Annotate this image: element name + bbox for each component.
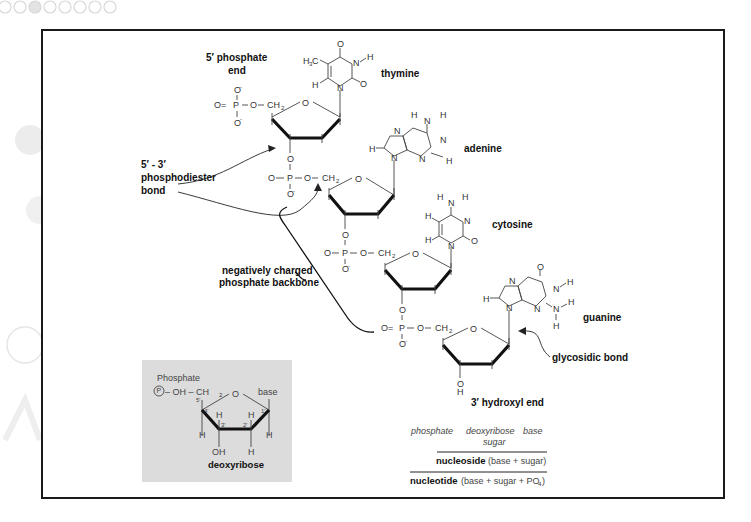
atom-o: O: [342, 230, 349, 240]
legend-nucleoside: nucleoside: [436, 455, 486, 466]
atom-h: H: [446, 156, 453, 166]
backbone-label-1: negatively charged: [222, 265, 313, 276]
atom-n: N: [448, 198, 455, 208]
atom-h: H: [457, 387, 464, 397]
ring-o: O: [302, 98, 309, 108]
atom-n: N: [353, 58, 360, 68]
three-prime-end-label: 3′ hydroxyl end: [471, 397, 544, 408]
legend-nucleoside-desc: (base + sugar): [488, 456, 546, 466]
sub: 2: [392, 253, 396, 259]
atom-o: O: [381, 323, 388, 333]
atom-ch2: CH: [267, 100, 280, 110]
inset-phosphate-label: Phosphate: [157, 373, 200, 383]
atom-h: H: [425, 235, 432, 245]
sub: 2: [449, 328, 453, 334]
bond-eq: =: [388, 323, 393, 333]
legend-base: base: [523, 426, 543, 436]
inset-oh-ch2: – OH – CH: [165, 387, 209, 397]
atom-n: N: [509, 276, 516, 286]
atom-n: N: [419, 154, 426, 164]
atom-o: O: [360, 248, 367, 258]
atom-h: H: [216, 410, 223, 420]
atom-n: N: [553, 304, 560, 314]
prime-4: 4': [204, 408, 208, 414]
atom-h: H: [567, 277, 574, 287]
atom-h: H: [568, 297, 575, 307]
atom-o: O: [471, 236, 478, 246]
five-prime-end-label: 5′ phosphate: [206, 52, 268, 63]
legend-nucleotide-desc: (base + sugar + PO: [461, 476, 540, 486]
legend-sugar: sugar: [483, 437, 507, 447]
atom-p: P: [233, 100, 239, 110]
atom-h: H: [411, 110, 418, 120]
atom-h: H: [553, 321, 560, 331]
atom-ch2: CH: [322, 173, 335, 183]
backbone-label-2: phosphate backbone: [219, 277, 319, 288]
atom-p: P: [287, 173, 293, 183]
atom-h: H: [266, 430, 273, 440]
legend-deoxyribose: deoxyribose: [466, 426, 515, 436]
atom-h: H: [369, 144, 376, 154]
atom-n: N: [464, 216, 471, 226]
dna-strand-diagram: 5′ phosphate end 5′ - 3′ phosphodiester …: [0, 0, 751, 522]
nucleotide-legend: phosphate deoxyribose sugar base nucleos…: [410, 426, 547, 487]
atom-c: C: [312, 56, 319, 66]
atom-o: O: [537, 262, 544, 272]
charge: -: [293, 188, 295, 194]
atom-o: O: [268, 173, 275, 183]
atom-n: N: [391, 153, 398, 163]
charge: -: [240, 116, 242, 122]
atom-ch2: CH: [435, 323, 448, 333]
charge: -: [348, 263, 350, 269]
atom-o: O: [324, 248, 331, 258]
ring-o: O: [470, 324, 477, 334]
charge: -: [405, 338, 407, 344]
prime-2: 2': [243, 422, 247, 428]
atom-ch2: CH: [378, 248, 391, 258]
atom-o: O: [360, 79, 367, 89]
bond-eq: =: [221, 100, 226, 110]
atom-o: O: [337, 39, 344, 49]
prime-1: 1': [261, 408, 265, 414]
charge: -: [240, 84, 242, 90]
atom-oh: OH: [212, 447, 226, 457]
atom-h: H: [437, 192, 444, 202]
phosphodiester-label-2: phosphodiester: [141, 172, 216, 183]
atom-h: H: [248, 447, 255, 457]
atom-n: N: [424, 116, 431, 126]
sub: 2: [336, 178, 340, 184]
atom-h: H: [248, 410, 255, 420]
atom-n: N: [337, 83, 344, 93]
atom-o: O: [304, 173, 311, 183]
atom-n: N: [394, 126, 401, 136]
atom-h: H: [425, 211, 432, 221]
atom-h: H: [462, 192, 469, 202]
inset-ring-o: O: [232, 389, 239, 399]
atom-o: O: [214, 100, 221, 110]
glycosidic-bond-label: glycosidic bond: [552, 352, 628, 363]
atom-h: H: [483, 294, 490, 304]
legend-close-paren: ): [542, 476, 545, 486]
atom-p: P: [399, 323, 405, 333]
p-circle-icon: P: [157, 387, 162, 394]
atom-o: O: [287, 154, 294, 164]
five-prime-end-label-2: end: [228, 65, 246, 76]
atom-p: P: [342, 248, 348, 258]
prime-3: 3': [221, 422, 225, 428]
atom-h: H: [367, 52, 374, 62]
base-label-adenine: adenine: [464, 143, 502, 154]
deoxyribose-inset: Phosphate P – OH – CH 2 O base 5' 4' 3' …: [142, 360, 292, 482]
atom-o: O: [399, 305, 406, 315]
atom-n: N: [448, 241, 455, 251]
legend-nucleotide: nucleotide: [410, 475, 458, 486]
nucleotide-adenine: O O P O CH 2 O - O N N N N H N H H: [268, 110, 453, 219]
inset-base: base: [258, 387, 278, 397]
atom-h: H: [199, 430, 206, 440]
atom-o: O: [250, 100, 257, 110]
prime-5: 5': [196, 397, 200, 403]
legend-phosphate: phosphate: [410, 426, 453, 436]
inset-title: deoxyribose: [208, 459, 264, 470]
ring-o: O: [412, 249, 419, 259]
ring-o: O: [355, 174, 362, 184]
atom-o: O: [417, 323, 424, 333]
